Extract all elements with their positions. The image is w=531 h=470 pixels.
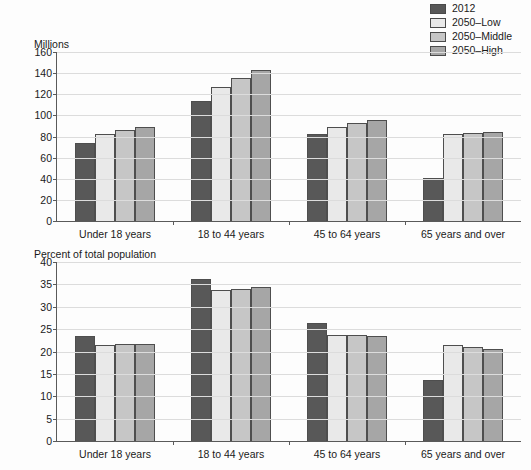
category-label: 18 to 44 years (173, 228, 289, 240)
y-tick-mark (53, 179, 57, 180)
y-tick-mark (53, 200, 57, 201)
y-tick-mark (53, 262, 57, 263)
x-tick-mark (173, 221, 174, 225)
y-tick-label: 160 (34, 46, 52, 58)
bar (115, 344, 135, 441)
bar (443, 345, 463, 441)
plot-area-millions: Under 18 years18 to 44 years45 to 64 yea… (56, 52, 521, 222)
bar (191, 101, 211, 221)
y-tick-label: 40 (40, 256, 52, 268)
gridline (57, 419, 521, 420)
y-tick-label: 30 (40, 301, 52, 313)
gridline (57, 307, 521, 308)
bar (115, 130, 135, 221)
gridline (57, 200, 521, 201)
x-tick-mark (173, 441, 174, 445)
bar (483, 349, 503, 441)
bar (211, 87, 231, 221)
y-tick-mark (53, 158, 57, 159)
bar (367, 120, 387, 221)
gridline (57, 179, 521, 180)
category-label: 45 to 64 years (289, 448, 405, 460)
y-tick-mark (53, 73, 57, 74)
chart-panel-millions: Millions Under 18 years18 to 44 years45 … (0, 38, 531, 238)
gridline (57, 73, 521, 74)
bar (307, 134, 327, 221)
bar (75, 143, 95, 221)
y-tick-mark (53, 52, 57, 53)
x-tick-mark (405, 221, 406, 225)
y-tick-label: 20 (40, 346, 52, 358)
x-tick-mark (289, 221, 290, 225)
y-tick-label: 15 (40, 368, 52, 380)
gridline (57, 94, 521, 95)
y-tick-mark (53, 94, 57, 95)
gridline (57, 137, 521, 138)
y-tick-label: 140 (34, 67, 52, 79)
y-tick-label: 0 (46, 435, 52, 447)
y-tick-mark (53, 419, 57, 420)
y-tick-mark (53, 115, 57, 116)
gridline (57, 374, 521, 375)
y-tick-label: 0 (46, 215, 52, 227)
y-tick-label: 120 (34, 88, 52, 100)
bar (135, 127, 155, 221)
bar (251, 70, 271, 221)
gridline (57, 352, 521, 353)
y-tick-label: 40 (40, 173, 52, 185)
bar (347, 123, 367, 221)
bar (463, 347, 483, 441)
legend-swatch (430, 18, 446, 28)
category-label: Under 18 years (57, 228, 173, 240)
gridline (57, 262, 521, 263)
category-label: 65 years and over (405, 228, 521, 240)
bar (443, 134, 463, 221)
y-tick-label: 100 (34, 109, 52, 121)
legend-swatch (430, 4, 446, 14)
gridline (57, 396, 521, 397)
x-tick-mark (405, 441, 406, 445)
y-tick-label: 60 (40, 152, 52, 164)
category-label: 18 to 44 years (173, 448, 289, 460)
legend-label: 2012 (452, 3, 475, 14)
y-tick-mark (53, 396, 57, 397)
x-tick-mark (289, 441, 290, 445)
plot-area-percent: Under 18 years18 to 44 years45 to 64 yea… (56, 262, 521, 442)
y-tick-mark (53, 221, 57, 222)
y-tick-label: 5 (46, 413, 52, 425)
category-label: 65 years and over (405, 448, 521, 460)
legend-item: 2012 (430, 2, 530, 15)
gridline (57, 329, 521, 330)
category-label: Under 18 years (57, 448, 173, 460)
legend-label: 2050–Low (452, 17, 500, 28)
gridline (57, 115, 521, 116)
bar (95, 345, 115, 441)
bar (483, 132, 503, 221)
y-tick-label: 80 (40, 131, 52, 143)
figure-root: 20122050–Low2050–Middle2050–High Million… (0, 0, 531, 470)
y-tick-mark (53, 374, 57, 375)
legend-item: 2050–Low (430, 16, 530, 29)
y-tick-mark (53, 307, 57, 308)
y-tick-mark (53, 352, 57, 353)
chart-panel-percent: Percent of total population Under 18 yea… (0, 248, 531, 463)
bar (463, 133, 483, 221)
bar (135, 344, 155, 441)
y-tick-mark (53, 441, 57, 442)
y-tick-label: 35 (40, 278, 52, 290)
bar (191, 279, 211, 441)
y-tick-label: 25 (40, 323, 52, 335)
figure-caption (8, 463, 523, 470)
gridline (57, 52, 521, 53)
bar (423, 380, 443, 441)
y-tick-label: 20 (40, 194, 52, 206)
category-label: 45 to 64 years (289, 228, 405, 240)
y-tick-mark (53, 329, 57, 330)
bar (327, 127, 347, 221)
y-tick-mark (53, 284, 57, 285)
y-tick-mark (53, 137, 57, 138)
y-tick-label: 10 (40, 390, 52, 402)
gridline (57, 284, 521, 285)
bar (95, 134, 115, 221)
gridline (57, 158, 521, 159)
